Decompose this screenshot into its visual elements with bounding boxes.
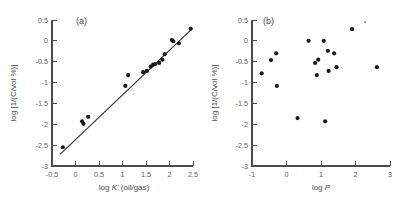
data-point bbox=[269, 58, 273, 62]
x-tick-label: 0 bbox=[74, 170, 78, 179]
data-point bbox=[145, 69, 149, 73]
data-point bbox=[350, 27, 354, 31]
data-point bbox=[160, 58, 164, 62]
x-tick-label: 3 bbox=[388, 170, 392, 179]
y-tick-label: -1.5 bbox=[236, 99, 248, 108]
data-point bbox=[295, 116, 299, 120]
data-point bbox=[274, 51, 278, 55]
y-tick-label: -2 bbox=[242, 120, 248, 129]
y-tick-label: 0.5 bbox=[238, 16, 248, 25]
x-axis-title-symbol: P bbox=[325, 183, 331, 192]
x-axis-title-prefix: log bbox=[312, 183, 325, 192]
data-point bbox=[177, 41, 181, 45]
x-tick-label: -0.5 bbox=[46, 170, 58, 179]
data-point bbox=[157, 61, 161, 65]
x-axis-title-suffix: (oil/gas) bbox=[119, 183, 150, 192]
scatter-plot-b: 0.50-0.5-1-1.5-2-2.5-3-10123(b)log Plog … bbox=[201, 0, 402, 208]
data-point bbox=[123, 84, 127, 88]
data-point bbox=[81, 122, 85, 126]
panel-a: 0.50-0.5-1-1.5-2-2.5-3-0.500.511.522.5(a… bbox=[0, 0, 201, 208]
y-tick-label: -1.5 bbox=[36, 99, 48, 108]
x-tick-label: 2.5 bbox=[188, 170, 198, 179]
data-point bbox=[322, 39, 326, 43]
y-tick-label: -0.5 bbox=[36, 57, 48, 66]
data-point bbox=[323, 119, 327, 123]
y-tick-label: -2 bbox=[42, 120, 48, 129]
axis-spines bbox=[252, 20, 390, 166]
y-tick-label: 0.5 bbox=[38, 16, 48, 25]
data-point bbox=[163, 52, 167, 56]
data-point bbox=[260, 71, 264, 75]
x-tick-label: 0.5 bbox=[94, 170, 104, 179]
data-point bbox=[171, 39, 175, 43]
panel-b: 0.50-0.5-1-1.5-2-2.5-3-10123(b)log Plog … bbox=[201, 0, 402, 208]
y-tick-label: -0.5 bbox=[236, 57, 248, 66]
scatter-plot-a: 0.50-0.5-1-1.5-2-2.5-3-0.500.511.522.5(a… bbox=[0, 0, 201, 208]
y-tick-label: -3 bbox=[242, 162, 248, 171]
y-tick-label: -1 bbox=[242, 78, 248, 87]
x-axis-title-prefix: log bbox=[99, 183, 112, 192]
data-point bbox=[126, 73, 130, 77]
data-point bbox=[332, 51, 336, 55]
data-point bbox=[313, 61, 317, 65]
y-tick-label: -2.5 bbox=[236, 141, 248, 150]
data-point bbox=[316, 58, 320, 62]
data-point bbox=[61, 145, 65, 149]
data-point bbox=[275, 84, 279, 88]
data-point bbox=[153, 62, 157, 66]
panel-tag: (a) bbox=[76, 16, 87, 26]
x-axis-title: log P bbox=[312, 183, 331, 192]
x-tick-label: 1.5 bbox=[141, 170, 151, 179]
x-tick-label: 0 bbox=[285, 170, 289, 179]
y-axis-title: log [1/(C/vol %)] bbox=[210, 65, 219, 122]
artifact-speck bbox=[364, 21, 366, 23]
y-tick-label: -1 bbox=[42, 78, 48, 87]
x-tick-label: 2 bbox=[354, 170, 358, 179]
x-tick-label: -1 bbox=[249, 170, 255, 179]
data-point bbox=[189, 27, 193, 31]
regression-line bbox=[60, 28, 193, 154]
x-tick-label: 1 bbox=[319, 170, 323, 179]
data-point bbox=[326, 69, 330, 73]
x-tick-label: 2 bbox=[168, 170, 172, 179]
y-tick-label: 0 bbox=[44, 36, 48, 45]
y-tick-label: 0 bbox=[244, 36, 248, 45]
x-axis-title: log K' (oil/gas) bbox=[99, 183, 150, 192]
y-tick-label: -2.5 bbox=[36, 141, 48, 150]
y-axis-title: log [1/(C/vol %)] bbox=[9, 65, 18, 122]
x-tick-label: 1 bbox=[121, 170, 125, 179]
data-point bbox=[306, 39, 310, 43]
data-point bbox=[141, 70, 145, 74]
data-point bbox=[326, 49, 330, 53]
data-point bbox=[334, 65, 338, 69]
data-point bbox=[86, 115, 90, 119]
data-point bbox=[375, 65, 379, 69]
data-point bbox=[315, 73, 319, 77]
panel-tag: (b) bbox=[263, 16, 274, 26]
figure-container: 0.50-0.5-1-1.5-2-2.5-3-0.500.511.522.5(a… bbox=[0, 0, 402, 208]
